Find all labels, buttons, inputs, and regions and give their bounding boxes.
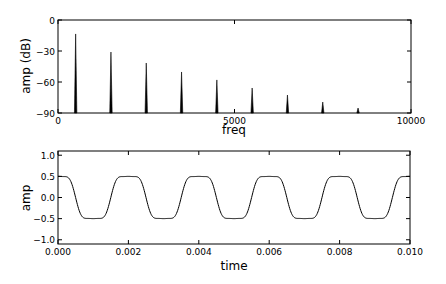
y-tick-label: −90 xyxy=(36,109,55,119)
y-tick-label: −0.5 xyxy=(33,214,55,224)
spectrum-ylabel: amp (dB) xyxy=(19,38,33,94)
spectrum-peak xyxy=(110,52,112,113)
spectrum-peak xyxy=(286,95,288,113)
spectrum-peak xyxy=(251,88,253,113)
y-tick-label: 0 xyxy=(49,16,55,26)
waveform-xlabel: time xyxy=(220,259,247,273)
x-tick-label: 0.000 xyxy=(45,247,71,257)
spectrum-peak xyxy=(74,34,76,113)
spectrum-peak xyxy=(322,102,324,113)
waveform-line xyxy=(58,176,410,218)
y-tick-label: 1.0 xyxy=(41,151,56,161)
x-tick-label: 0 xyxy=(55,116,61,126)
spectrum-peak xyxy=(357,108,359,113)
x-tick-label: 0.002 xyxy=(116,247,142,257)
spectrum-axes: 05000100000−30−60−90 freq amp (dB) xyxy=(19,16,426,138)
spectrum-peak xyxy=(216,80,218,113)
spectrum-stems xyxy=(74,34,359,113)
x-tick-label: 0.008 xyxy=(327,247,353,257)
waveform-ticks: 0.0000.0020.0040.0060.0080.0101.00.50.0−… xyxy=(33,151,423,257)
x-tick-label: 10000 xyxy=(397,116,426,126)
y-tick-label: −1.0 xyxy=(33,235,55,245)
spectrum-peak xyxy=(145,63,147,113)
waveform-ylabel: amp xyxy=(19,185,33,212)
waveform-axes: 0.0000.0020.0040.0060.0080.0101.00.50.0−… xyxy=(19,151,423,273)
x-tick-label: 0.004 xyxy=(186,247,212,257)
y-tick-label: 0.5 xyxy=(41,172,55,182)
spectrum-ticks: 05000100000−30−60−90 xyxy=(36,16,426,127)
y-tick-label: −60 xyxy=(36,78,55,88)
spectrum-xlabel: freq xyxy=(222,123,246,137)
x-tick-label: 0.010 xyxy=(397,247,423,257)
x-tick-label: 0.006 xyxy=(256,247,282,257)
y-tick-label: 0.0 xyxy=(41,193,56,203)
spectrum-peak xyxy=(180,72,182,113)
figure: 05000100000−30−60−90 freq amp (dB) 0.000… xyxy=(0,0,446,284)
y-tick-label: −30 xyxy=(36,47,55,57)
